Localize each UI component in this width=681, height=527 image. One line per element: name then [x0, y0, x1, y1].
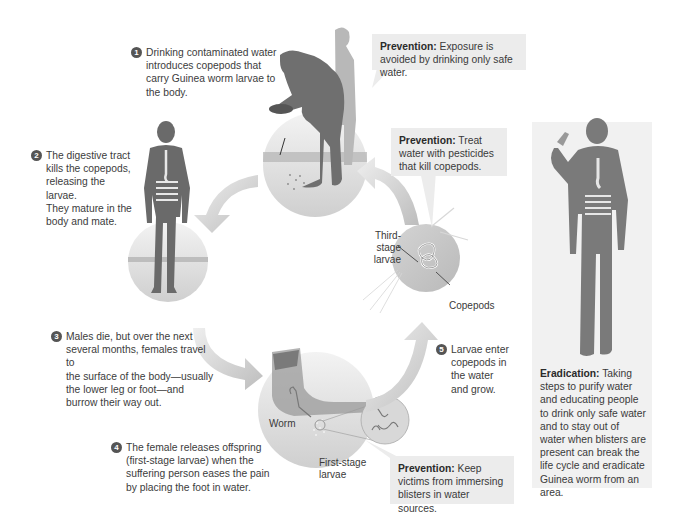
- label-worm: Worm: [269, 418, 295, 430]
- step-2-line: They mature in the: [46, 202, 136, 215]
- step-3-line: the lower leg or foot—and: [66, 383, 216, 396]
- callout-pointer-2: [420, 171, 436, 228]
- step-number-badge: 5: [436, 344, 447, 355]
- step-4-line: by placing the foot in water.: [126, 481, 276, 494]
- label-line: First-stage: [319, 457, 366, 469]
- step-3-line: burrow their way out.: [66, 396, 216, 409]
- step-1: 1 Drinking contaminated water introduces…: [146, 46, 296, 99]
- step-5: 5 Larvae enter copepods in the water and…: [451, 343, 521, 396]
- step-4-line: (first-stage larvae) when the: [126, 454, 276, 467]
- step-2-line: releasing the larvae.: [46, 175, 136, 201]
- step-3-line: several months, females travel to: [66, 343, 216, 369]
- digestion-scene: [128, 121, 208, 302]
- step-2-line: body and mate.: [46, 215, 136, 228]
- step-1-line: Drinking contaminated water: [146, 46, 296, 59]
- step-2: 2 The digestive tract kills the copepods…: [46, 149, 136, 228]
- prevention-callout-pesticides: Prevention: Treat water with pesticides …: [391, 128, 507, 176]
- prevention-label: Prevention:: [398, 463, 455, 474]
- step-2-line: The digestive tract: [46, 149, 136, 162]
- step-2-line: kills the copepods,: [46, 162, 136, 175]
- step-1-line: the body.: [146, 86, 296, 99]
- step-5-line: Larvae enter: [451, 343, 521, 356]
- step-4-line: suffering person eases the pain: [126, 467, 276, 480]
- step-3-line: the surface of the body—usually: [66, 370, 216, 383]
- step-number-badge: 1: [131, 47, 142, 58]
- prevention-callout-blisters: Prevention: Keep victims from immersing …: [390, 456, 514, 504]
- prevention-callout-safe-water: Prevention: Exposure is avoided by drink…: [372, 34, 526, 70]
- step-1-line: introduces copepods that: [146, 59, 296, 72]
- step-4: 4 The female releases offspring (first-s…: [126, 441, 276, 494]
- label-line: larvae: [351, 254, 401, 266]
- step-number-badge: 2: [31, 150, 42, 161]
- step-1-line: carry Guinea worm larvae to: [146, 72, 296, 85]
- step-3-line: Males die, but over the next: [66, 330, 216, 343]
- eradication-label: Eradication:: [540, 368, 600, 379]
- prevention-label: Prevention:: [380, 41, 437, 52]
- step-5-line: copepods in: [451, 356, 521, 369]
- eradication-body: Taking steps to purify water and educati…: [540, 368, 646, 498]
- step-3: 3 Males die, but over the next several m…: [66, 330, 216, 409]
- step-5-line: the water: [451, 369, 521, 382]
- prevention-label: Prevention:: [399, 135, 456, 146]
- label-line: larvae: [319, 469, 366, 481]
- step-4-line: The female releases offspring: [126, 441, 276, 454]
- eradication-text: Eradication: Taking steps to purify wate…: [540, 367, 646, 499]
- step-5-line: and grow.: [451, 383, 521, 396]
- label-third-stage-larvae: Third-stage larvae: [351, 230, 401, 266]
- foot-scene: [258, 348, 409, 468]
- label-line: Third-stage: [351, 230, 401, 254]
- step-number-badge: 3: [51, 331, 62, 342]
- label-copepods: Copepods: [449, 300, 495, 312]
- label-first-stage-larvae: First-stage larvae: [319, 457, 366, 481]
- step-number-badge: 4: [111, 442, 122, 453]
